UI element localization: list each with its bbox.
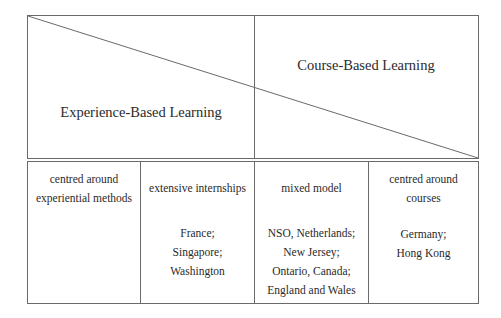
place-item: Ontario, Canada; bbox=[255, 262, 368, 281]
column-experiential: centred around experiential methods bbox=[28, 162, 140, 303]
places-list: France; Singapore; Washington bbox=[141, 224, 254, 281]
place-item: Hong Kong bbox=[369, 244, 478, 263]
column-heading: centred around courses bbox=[369, 170, 478, 208]
column-heading: extensive internships bbox=[141, 170, 254, 198]
column-internships: extensive internships France; Singapore;… bbox=[140, 162, 254, 303]
heading-line: experiential methods bbox=[28, 189, 140, 208]
place-item: England and Wales bbox=[255, 281, 368, 300]
learning-spectrum-box: Experience-Based Learning Course-Based L… bbox=[27, 15, 479, 159]
experience-based-label: Experience-Based Learning bbox=[28, 104, 254, 121]
diagonal-line bbox=[28, 16, 478, 158]
column-mixed-model: mixed model NSO, Netherlands; New Jersey… bbox=[254, 162, 368, 303]
places-list: Germany; Hong Kong bbox=[369, 225, 478, 263]
column-courses: centred around courses Germany; Hong Kon… bbox=[368, 162, 478, 303]
heading-line: extensive internships bbox=[141, 179, 254, 198]
top-divider bbox=[254, 16, 255, 158]
places-list: NSO, Netherlands; New Jersey; Ontario, C… bbox=[255, 224, 368, 300]
place-item: France; bbox=[141, 224, 254, 243]
heading-line: courses bbox=[369, 189, 478, 208]
column-heading: centred around experiential methods bbox=[28, 170, 140, 208]
models-table: centred around experiential methods exte… bbox=[27, 161, 479, 304]
place-item: NSO, Netherlands; bbox=[255, 224, 368, 243]
place-item: Washington bbox=[141, 262, 254, 281]
column-heading: mixed model bbox=[255, 170, 368, 198]
heading-line: mixed model bbox=[255, 179, 368, 198]
heading-line: centred around bbox=[369, 170, 478, 189]
heading-line: centred around bbox=[28, 170, 140, 189]
course-based-label: Course-Based Learning bbox=[254, 57, 478, 74]
place-item: Singapore; bbox=[141, 243, 254, 262]
place-item: Germany; bbox=[369, 225, 478, 244]
place-item: New Jersey; bbox=[255, 243, 368, 262]
